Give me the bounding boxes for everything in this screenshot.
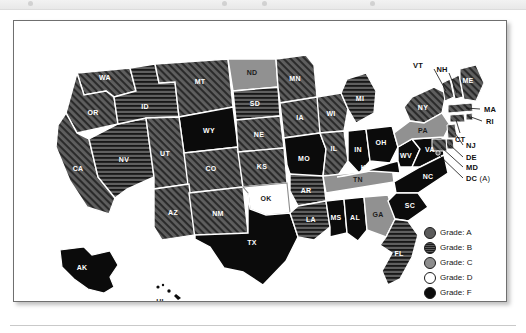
state-label-HI: HI [156,298,164,302]
us-choropleth-map: WA OR CA NV ID MT WY UT CO AZ NM ND SD N… [14,21,507,302]
callout-label-VT: VT [413,61,423,70]
state-label-OH: OH [375,139,386,146]
legend-swatch-c-icon [424,257,436,269]
legend-label-d: Grade: D [440,272,472,284]
state-label-WY: WY [203,127,215,134]
state-label-AL: AL [350,214,360,221]
legend-swatch-b-icon [424,242,436,254]
state-AK [60,247,118,293]
state-label-GA: GA [372,211,383,218]
state-label-TX: TX [247,239,257,246]
callout-dc-code: DC [466,174,478,183]
state-label-MT: MT [195,78,206,85]
state-label-IN: IN [354,146,362,153]
state-label-MN: MN [289,75,301,82]
state-CT [450,114,465,122]
state-label-KS: KS [257,163,267,170]
state-label-AR: AR [301,187,312,194]
header-dot [370,1,375,6]
legend-item-c[interactable]: Grade: C [424,256,506,270]
state-label-OR: OR [87,109,98,116]
page-root: WA OR CA NV ID MT WY UT CO AZ NM ND SD N… [0,0,526,333]
legend-item-a[interactable]: Grade: A [424,226,506,240]
state-label-ND: ND [247,69,258,76]
state-label-NM: NM [212,210,224,217]
state-RI [466,113,473,120]
state-label-MI: MI [356,95,364,102]
legend-item-d[interactable]: Grade: D [424,271,506,285]
state-label-NV: NV [119,156,129,163]
state-label-OK: OK [260,195,271,202]
state-label-IL: IL [331,145,338,152]
state-DC [436,151,440,155]
map-legend: Grade: A Grade: B Grade: C Grade: D Grad… [424,226,506,301]
header-dot [222,1,227,6]
state-label-NE: NE [254,131,264,138]
state-label-CA: CA [73,165,84,172]
state-label-SC: SC [405,202,415,209]
state-label-ID: ID [141,103,149,110]
state-label-AZ: AZ [168,209,178,216]
legend-label-a: Grade: A [440,227,472,239]
leader-line-DE [450,145,463,157]
state-label-FL: FL [394,250,404,257]
legend-swatch-f-icon [424,287,436,299]
state-label-PA: PA [418,127,428,134]
state-label-ME: ME [462,77,473,84]
legend-label-b: Grade: B [440,242,472,254]
state-label-VA: VA [425,146,435,153]
state-label-LA: LA [306,216,316,223]
state-label-TN: TN [353,176,363,183]
state-label-KY: KY [361,164,371,171]
callout-label-RI: RI [486,117,494,126]
callout-label-NH: NH [436,65,447,74]
callout-label-MD: MD [466,163,478,172]
header-dot [262,1,267,6]
callout-label-DC: DC (A) [466,174,490,183]
callout-label-CT: CT [455,135,466,144]
state-label-WV: WV [400,152,412,159]
page-footer-divider [10,325,516,326]
callout-label-DE: DE [466,153,477,162]
state-label-AK: AK [77,264,88,271]
state-label-NY: NY [418,104,428,111]
state-label-UT: UT [160,150,170,157]
callout-label-NJ: NJ [466,141,476,150]
legend-item-b[interactable]: Grade: B [424,241,506,255]
state-label-WI: WI [326,110,335,117]
state-label-MS: MS [330,214,341,221]
state-label-SD: SD [250,100,260,107]
callout-label-MA: MA [484,105,496,114]
callout-dc-grade: (A) [477,174,490,183]
legend-swatch-a-icon [424,227,436,239]
legend-item-f[interactable]: Grade: F [424,286,506,300]
state-label-CO: CO [205,165,216,172]
legend-swatch-d-icon [424,272,436,284]
state-label-WA: WA [99,74,111,81]
truncated-page-header [0,0,526,10]
state-label-IA: IA [296,114,304,121]
state-label-MO: MO [298,155,310,162]
legend-label-c: Grade: C [440,257,472,269]
figure-card: WA OR CA NV ID MT WY UT CO AZ NM ND SD N… [13,20,507,302]
header-dot [28,1,33,6]
legend-label-f: Grade: F [440,287,472,299]
state-label-NC: NC [423,173,434,180]
